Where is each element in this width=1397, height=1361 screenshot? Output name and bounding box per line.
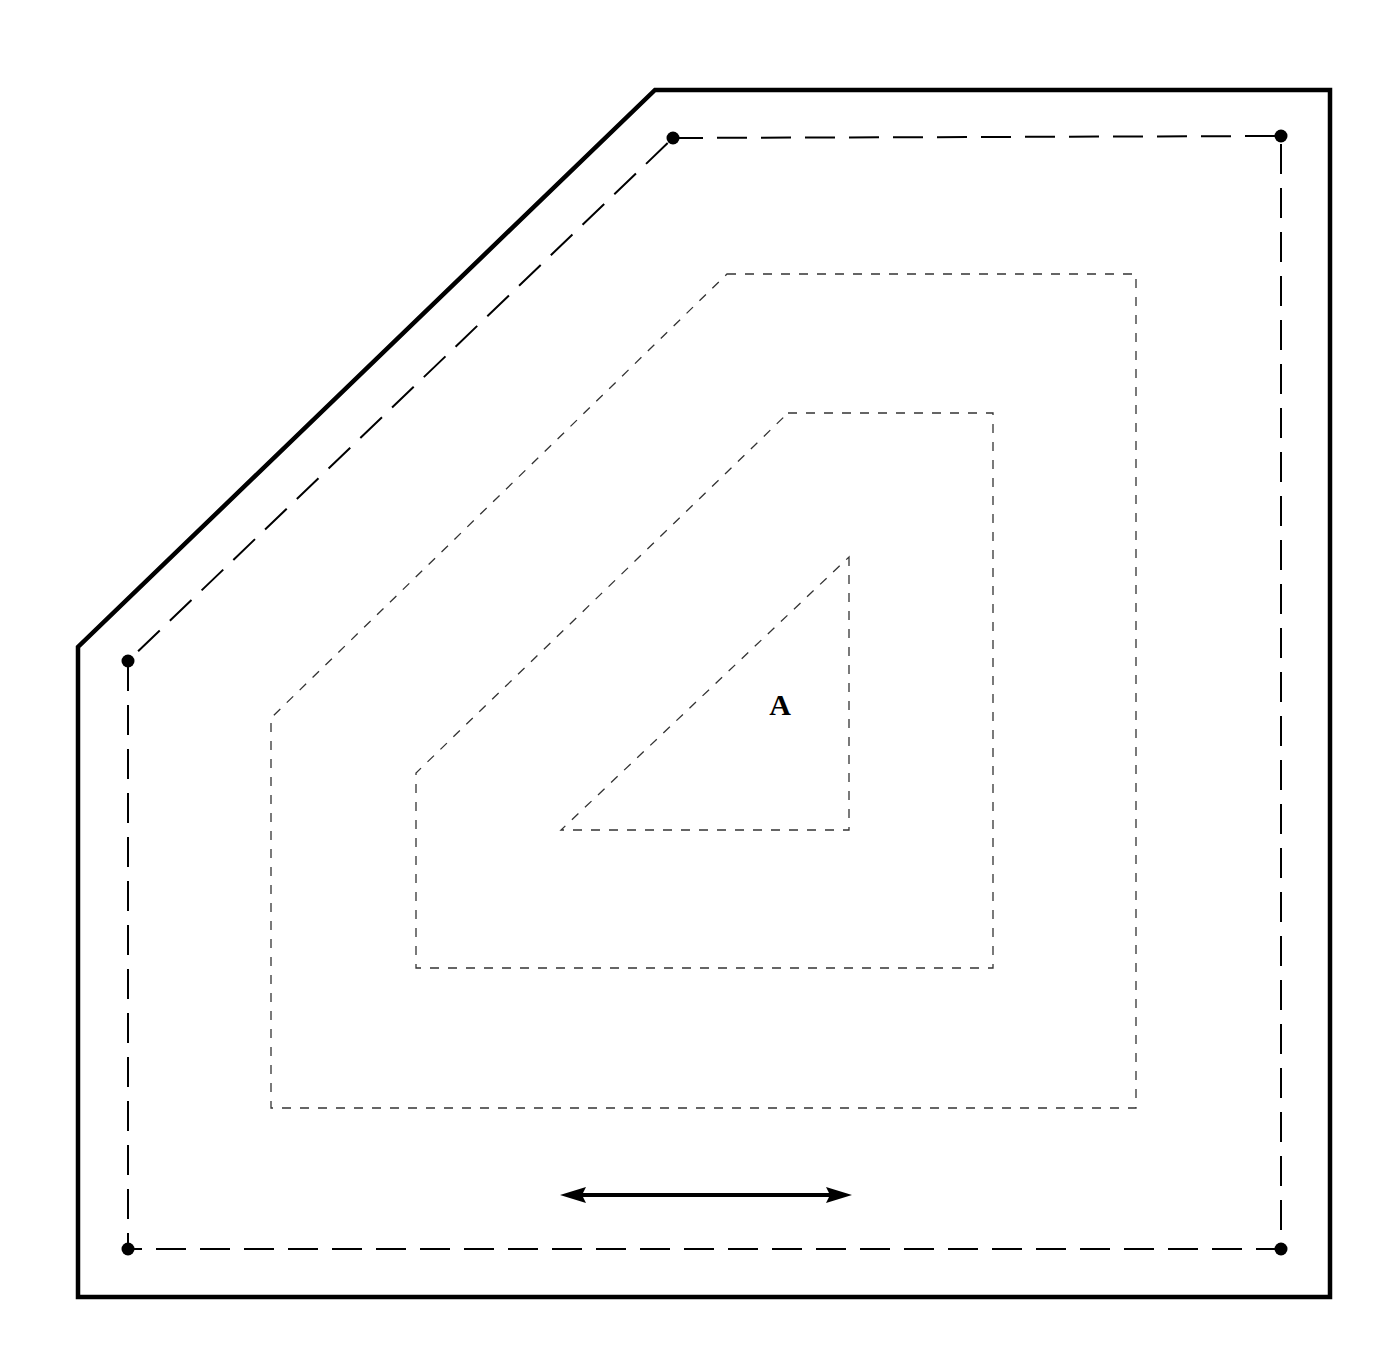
corner-dot bbox=[122, 655, 135, 668]
corner-dot bbox=[122, 1243, 135, 1256]
area-label-a: A bbox=[769, 688, 791, 721]
background bbox=[0, 0, 1397, 1361]
diagram-canvas: A bbox=[0, 0, 1397, 1361]
corner-dot bbox=[667, 132, 680, 145]
corner-dot bbox=[1275, 1243, 1288, 1256]
corner-dot bbox=[1275, 130, 1288, 143]
